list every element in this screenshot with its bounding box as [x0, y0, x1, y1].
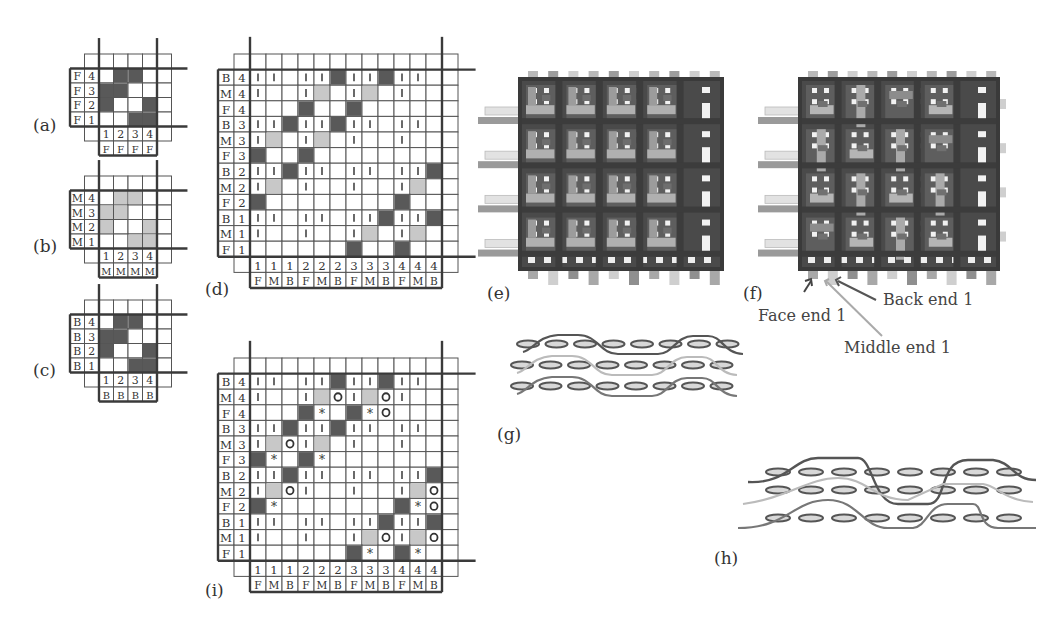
grid-cell	[330, 179, 346, 195]
grid-cell	[128, 98, 143, 113]
column-number-label: 4	[398, 259, 405, 273]
row-letter-label: F	[73, 99, 81, 112]
interlace-gap	[943, 88, 948, 93]
interlace-gap	[544, 88, 549, 93]
fabric-simulation-f	[758, 71, 1006, 285]
column-letter-label: B	[430, 579, 438, 591]
grid-cell	[442, 467, 458, 483]
padding-cell	[314, 358, 330, 374]
warp-float	[649, 131, 657, 149]
asterisk-marker-icon: *	[415, 500, 421, 514]
grid-cell	[426, 389, 442, 405]
dark-cell	[251, 499, 266, 514]
callout-middle-end: Middle end 1	[844, 338, 951, 357]
grid-cell	[330, 389, 346, 405]
weft-float	[607, 194, 635, 203]
dark-cell	[299, 148, 314, 163]
column-number-label: 2	[117, 128, 124, 141]
weft-cross-section-icon	[625, 383, 647, 390]
weft-pick-stub	[765, 195, 801, 203]
row-letter-label: M	[72, 236, 83, 249]
weave-diagram-canvas: F4F3F2F11234FFFFM4M3M2M11234MMMMB4B3B2B1…	[0, 0, 1051, 619]
dark-cell	[283, 164, 298, 179]
column-number-label: 3	[350, 563, 357, 577]
binder-weft	[800, 207, 998, 213]
column-letter-label: M	[130, 266, 140, 277]
grid-cell	[330, 405, 346, 421]
column-number-cell	[85, 373, 100, 388]
dark-cell	[427, 468, 442, 483]
grid-a: F4F3F2F11234FFFF	[70, 38, 187, 155]
column-number-label: 3	[132, 128, 139, 141]
padding-cell	[314, 54, 330, 70]
interlace-gap	[812, 132, 817, 137]
padding-cell	[442, 358, 458, 374]
grid-cell	[442, 405, 458, 421]
grid-cell	[266, 85, 282, 101]
interlace-gap	[852, 88, 857, 93]
column-letter-label: M	[365, 579, 376, 591]
row-letter-label: F	[73, 114, 81, 127]
interlace-gap	[978, 191, 986, 207]
row-letter-label: B	[222, 71, 231, 85]
grid-cell	[410, 405, 426, 421]
grid-cell	[394, 452, 410, 468]
grid-cell	[282, 132, 298, 148]
grid-cell	[442, 179, 458, 195]
weft-pick-stub	[485, 195, 521, 203]
padding-cell	[128, 176, 143, 191]
weft-float-dark	[542, 183, 550, 189]
column-number-label: 4	[146, 128, 153, 141]
light-cell	[267, 483, 282, 498]
asterisk-marker-icon: *	[271, 500, 277, 514]
panel-label-e: (e)	[487, 283, 510, 303]
grid-cell	[282, 179, 298, 195]
weft-float	[526, 194, 554, 203]
grid-cell	[314, 530, 330, 546]
padding-cell	[426, 358, 442, 374]
column-number-label: 3	[132, 374, 139, 387]
row-number-label: 1	[238, 227, 245, 241]
weft-float-dark	[623, 95, 631, 101]
row-letter-label: F	[73, 85, 81, 98]
grid-cell	[442, 498, 458, 514]
grid-cell	[362, 148, 378, 164]
interlace-gap	[936, 257, 943, 263]
grid-cell	[442, 101, 458, 117]
grid-cell	[314, 101, 330, 117]
column-number-cell	[157, 373, 172, 388]
grid-cell	[378, 498, 394, 514]
column-number-label: 1	[286, 259, 293, 273]
grid-cell	[157, 329, 172, 344]
light-cell	[363, 530, 378, 545]
weft-cross-section-icon	[832, 469, 856, 476]
dark-cell	[379, 374, 394, 389]
column-letter-label: B	[103, 390, 110, 401]
grid-cell	[250, 101, 266, 117]
cross-section-h	[738, 458, 1036, 528]
interlace-gap	[978, 220, 986, 226]
interlace-gap	[891, 232, 896, 237]
interlace-gap	[931, 188, 936, 193]
padding-cell	[346, 54, 362, 70]
interlace-gap	[702, 220, 710, 226]
grid-cell	[330, 514, 346, 530]
grid-cell	[143, 191, 158, 206]
weft-cross-section-icon	[682, 362, 704, 369]
row-number-label: 3	[238, 134, 245, 148]
column-letter-label: F	[254, 275, 261, 287]
light-cell	[315, 437, 330, 452]
grid-cell	[362, 179, 378, 195]
row-number-label: 2	[238, 196, 245, 210]
grid-cell	[378, 85, 394, 101]
interlace-gap	[704, 257, 711, 263]
padding-cell	[114, 300, 129, 315]
grid-cell	[378, 452, 394, 468]
dark-cell	[331, 70, 346, 85]
asterisk-marker-icon: *	[415, 547, 421, 561]
grid-cell	[378, 436, 394, 452]
row-letter-label: F	[222, 407, 230, 421]
row-letter-label: M	[220, 227, 232, 241]
grid-cell	[442, 194, 458, 210]
padding-cell	[394, 358, 410, 374]
